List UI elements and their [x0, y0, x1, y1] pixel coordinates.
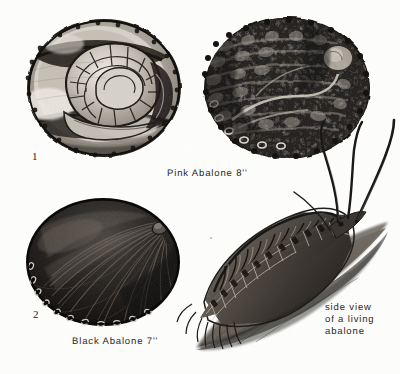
- caption-side-view-line-1: side view: [325, 302, 374, 314]
- illustration-plate: 1 2 Pink Abalone 8'' Black Abalone 7'' s…: [0, 0, 400, 374]
- figure-number-2: 2: [33, 308, 39, 320]
- caption-side-view: side view of a living abalone: [325, 302, 374, 338]
- caption-black-abalone: Black Abalone 7'': [72, 336, 158, 348]
- caption-side-view-line-2: of a living: [325, 314, 374, 326]
- caption-side-view-line-3: abalone: [325, 326, 374, 338]
- figure-number-1: 1: [32, 150, 38, 162]
- caption-pink-abalone: Pink Abalone 8'': [167, 168, 248, 180]
